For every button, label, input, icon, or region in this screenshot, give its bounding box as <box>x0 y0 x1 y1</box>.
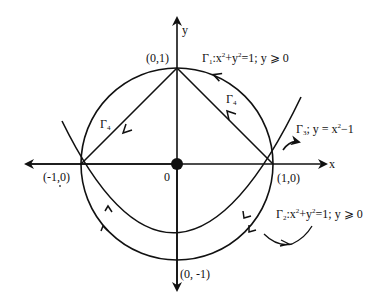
stray-dot <box>59 185 61 187</box>
contour-diagram: y x 0 (0,1) (1,0) (-1,0) (0, -1) Γ1:x2+y… <box>0 0 384 306</box>
gamma1-label: Γ1:x2+y2=1; y ⩾ 0 <box>202 51 289 66</box>
point-right-label: (1,0) <box>277 171 300 185</box>
point-top-label: (0,1) <box>146 51 169 65</box>
gamma4-right-label: Γ4 <box>226 92 237 107</box>
gamma3-label: Γ3; y = x2−1 <box>296 122 354 137</box>
point-bottom-label: (0, -1) <box>180 267 210 281</box>
origin-label: 0 <box>164 170 170 184</box>
chord-top-right <box>177 68 273 164</box>
origin-dot <box>171 158 183 170</box>
gamma2-pointer <box>264 226 312 245</box>
gamma3-pointer <box>283 142 299 150</box>
y-axis-label: y <box>182 23 188 37</box>
point-left-label: (-1,0) <box>43 170 70 184</box>
gamma4-left-label: Γ4 <box>100 117 111 132</box>
gamma2-label: Γ2:x2+y2=1; y ⩾ 0 <box>276 207 363 222</box>
chord-top-left <box>81 68 177 164</box>
x-axis-label: x <box>329 157 335 171</box>
